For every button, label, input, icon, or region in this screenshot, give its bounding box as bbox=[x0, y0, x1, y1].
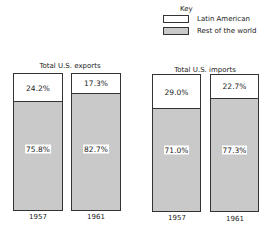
imports-1957-latin-value: 29.0% bbox=[164, 88, 190, 97]
legend-label-rest-of-world: Rest of the world bbox=[197, 27, 256, 35]
imports-1961-rest-value: 77.3% bbox=[222, 146, 248, 155]
exports-1957-rest-segment bbox=[14, 100, 62, 210]
imports-1961-year: 1961 bbox=[210, 215, 260, 223]
legend-title: Key bbox=[180, 5, 193, 13]
exports-1961-rest-value: 82.7% bbox=[83, 145, 109, 154]
imports-1957-year: 1957 bbox=[152, 214, 202, 222]
exports-1961-latin-value: 17.3% bbox=[83, 79, 109, 88]
exports-1957-latin-value: 24.2% bbox=[25, 84, 51, 93]
exports-1961-bar: 17.3% 82.7% bbox=[71, 73, 121, 211]
legend-swatch-latin-american bbox=[163, 15, 189, 23]
exports-group-title: Total U.S. exports bbox=[30, 62, 110, 70]
exports-1961-year: 1961 bbox=[71, 213, 121, 221]
exports-1957-year: 1957 bbox=[13, 213, 63, 221]
imports-1961-bar: 22.7% 77.3% bbox=[210, 74, 259, 212]
imports-1957-rest-segment bbox=[153, 107, 200, 211]
exports-1957-rest-value: 75.8% bbox=[25, 145, 51, 154]
imports-group-title: Total U.S. imports bbox=[165, 66, 245, 74]
legend-label-latin-american: Latin American bbox=[197, 15, 250, 23]
imports-1957-rest-value: 71.0% bbox=[164, 146, 190, 155]
imports-1961-latin-value: 22.7% bbox=[222, 82, 248, 91]
legend-swatch-rest-of-world bbox=[163, 27, 189, 35]
imports-1957-bar: 29.0% 71.0% bbox=[152, 74, 201, 212]
exports-1957-bar: 24.2% 75.8% bbox=[13, 73, 63, 211]
